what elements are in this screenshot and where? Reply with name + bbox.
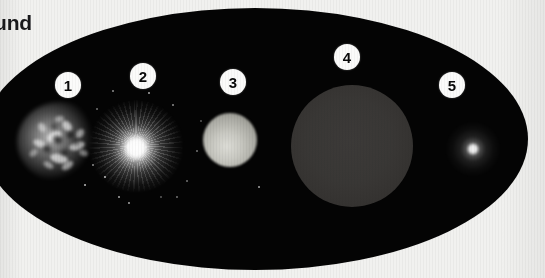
callout-badge-1: 1: [55, 72, 81, 98]
object-3-grey-sphere: [203, 113, 257, 167]
callout-badge-4: 4: [334, 44, 360, 70]
callout-badge-3: 3: [220, 69, 246, 95]
background-star: [172, 104, 174, 106]
background-star: [84, 184, 86, 186]
background-star: [160, 196, 162, 198]
background-star: [96, 108, 98, 110]
callout-badge-number: 5: [448, 78, 456, 93]
callout-badge-number: 1: [64, 78, 72, 93]
astronomy-figure: und 12345: [0, 0, 545, 278]
object-layer: [0, 8, 528, 270]
background-star: [196, 150, 198, 152]
object-5-compact-point: [445, 121, 501, 177]
background-star: [176, 196, 178, 198]
star-core-halo: [88, 100, 184, 192]
background-star: [112, 90, 114, 92]
callout-badge-number: 3: [229, 75, 237, 90]
background-star: [200, 120, 202, 122]
point-halo: [445, 121, 501, 177]
background-star: [148, 92, 150, 94]
background-star: [104, 176, 106, 178]
caption-fragment-text: und: [0, 10, 32, 36]
background-star: [258, 186, 260, 188]
sky-field-ellipse: [0, 8, 528, 270]
object-2-bright-star: [88, 100, 184, 192]
object-4-large-dim-disc: [291, 85, 413, 207]
callout-badge-5: 5: [439, 72, 465, 98]
background-star: [186, 180, 188, 182]
background-star: [92, 164, 94, 166]
background-star: [118, 196, 120, 198]
callout-badge-2: 2: [130, 63, 156, 89]
background-star: [128, 202, 130, 204]
callout-badge-number: 4: [343, 50, 351, 65]
callout-badge-number: 2: [139, 69, 147, 84]
